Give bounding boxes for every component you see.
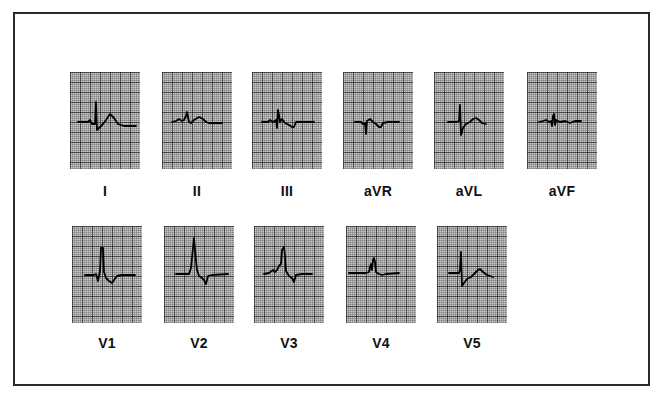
- ecg-strip-v3: [254, 226, 324, 323]
- ecg-strip-v2: [164, 226, 234, 323]
- lead-label-v3: V3: [244, 335, 334, 351]
- ecg-strip-avf: [527, 72, 597, 169]
- ecg-strip-v1: [72, 226, 142, 323]
- lead-label-v1: V1: [62, 335, 152, 351]
- ecg-grid: [70, 72, 140, 169]
- lead-label-v2: V2: [154, 335, 244, 351]
- ecg-strip-v4: [346, 226, 416, 323]
- lead-label-ii: II: [152, 183, 242, 199]
- lead-label-iii: III: [242, 183, 332, 199]
- lead-label-avr: aVR: [333, 183, 423, 199]
- ecg-grid: [254, 226, 324, 323]
- ecg-strip-avr: [343, 72, 413, 169]
- ecg-strip-avl: [434, 72, 504, 169]
- ecg-strip-i: [70, 72, 140, 169]
- ecg-grid: [164, 226, 234, 323]
- figure-frame: [13, 12, 650, 386]
- lead-label-avl: aVL: [424, 183, 514, 199]
- ecg-grid: [252, 72, 322, 169]
- ecg-grid: [346, 226, 416, 323]
- ecg-grid: [437, 226, 507, 323]
- lead-label-v5: V5: [427, 335, 517, 351]
- lead-label-avf: aVF: [517, 183, 607, 199]
- ecg-grid: [434, 72, 504, 169]
- lead-label-v4: V4: [336, 335, 426, 351]
- ecg-grid: [162, 72, 232, 169]
- lead-label-i: I: [60, 183, 150, 199]
- ecg-strip-v5: [437, 226, 507, 323]
- ecg-strip-iii: [252, 72, 322, 169]
- ecg-strip-ii: [162, 72, 232, 169]
- ecg-grid: [343, 72, 413, 169]
- ecg-grid: [72, 226, 142, 323]
- ecg-grid: [527, 72, 597, 169]
